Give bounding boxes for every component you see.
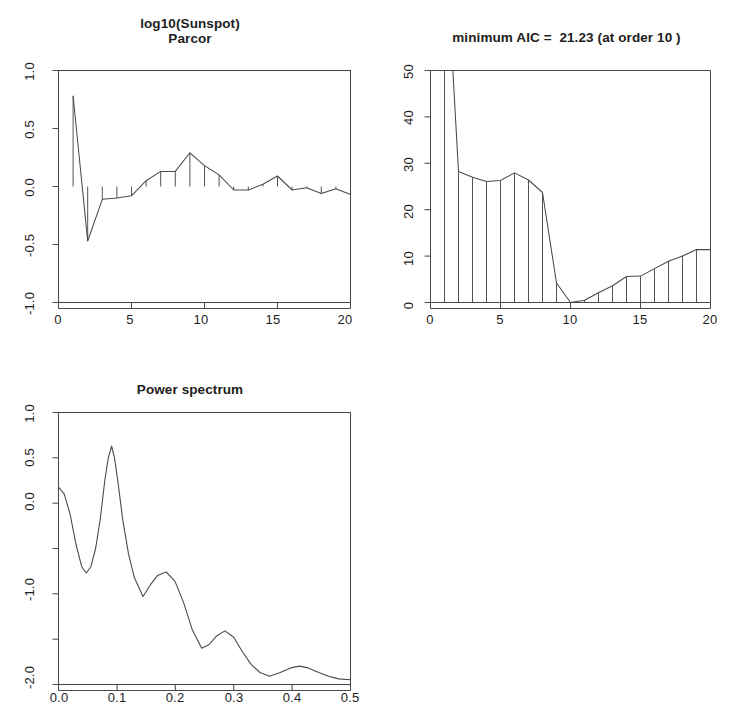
parcor-series-line (73, 96, 350, 241)
panel-power-spectrum: Power spectrum 1.0 0.5 0.0 -1.0 -2.0 0.0… (0, 370, 380, 727)
parcor-spikes (73, 96, 350, 241)
parcor-plot-svg (0, 0, 380, 350)
spectrum-series-curve (59, 446, 351, 680)
spectrum-plot-svg (0, 370, 380, 727)
parcor-x-ticks (59, 303, 351, 309)
aic-x-ticks (431, 303, 711, 309)
panel-parcor: log10(Sunspot) Parcor 1.0 0.5 0.0 -0.5 -… (0, 0, 380, 350)
spectrum-y-ticks (53, 413, 59, 685)
aic-plot-svg (380, 0, 753, 350)
spectrum-frame (59, 413, 351, 685)
panel-aic: minimum AIC = 21.23 (at order 10 ) 50 40… (380, 0, 753, 350)
aic-spikes (431, 60, 711, 303)
spectrum-x-ticks (59, 685, 351, 691)
parcor-y-ticks (53, 71, 59, 303)
aic-y-ticks (425, 71, 431, 303)
